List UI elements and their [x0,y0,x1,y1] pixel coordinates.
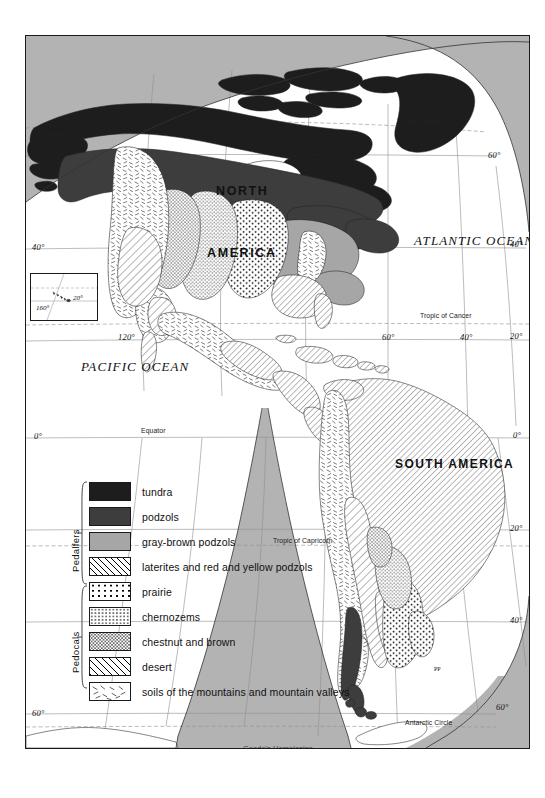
lon-label-40w: 40° [460,332,473,342]
legend-label-gray-brown-podzols: gray-brown podzols [142,536,235,548]
line-label-equator: Equator [141,427,166,434]
legend-label-prairie: prairie [142,586,172,598]
legend-swatch-desert [89,657,131,676]
legend-label-mountain-soils: soils of the mountains and mountain vall… [142,686,349,698]
legend-label-chernozems: chernozems [142,611,200,623]
continent-label-america: AMERICA [207,246,277,260]
inset-graphic [31,274,97,320]
lat-label-0-right: 0° [513,430,521,440]
legend-swatch-mountain-soils [89,682,131,701]
map-canvas: PACIFIC OCEAN ATLANTIC OCEAN NORTH AMERI… [26,36,529,748]
inset-label-160: 160° [36,304,49,312]
legend-group-label-pedalfers: Pedalfers [70,529,81,572]
legend-item-prairie[interactable]: prairie [89,579,349,604]
lat-label-40s-right: 40° [510,615,523,625]
lat-label-0-left: 0° [34,431,42,441]
caption-line-1: Goode's Homolosine [198,744,358,749]
legend-swatch-gray-brown-podzols [89,532,131,551]
point-label-pp: PP [434,666,441,672]
legend-swatch-podzols [89,507,131,526]
line-label-arctic-circle: Arctic Circle [404,118,442,125]
lat-label-60s-left: 60° [32,708,45,718]
lat-label-60s-right: 60° [496,702,509,712]
lon-label-120w: 120° [118,332,135,342]
inset-map-hawaii: 160° 20° [30,273,98,321]
legend-label-tundra: tundra [142,486,172,498]
legend-label-desert: desert [142,661,172,673]
projection-caption: Goode's Homolosine Equal-Area Projection… [198,744,358,749]
legend-item-gray-brown-podzols[interactable]: gray-brown podzols [89,529,349,554]
lat-label-40n-right: 40° [510,239,523,249]
legend-swatch-prairie [89,582,131,601]
legend-label-podzols: podzols [142,511,179,523]
legend-item-chernozems[interactable]: chernozems [89,604,349,629]
legend-item-chestnut-and-brown[interactable]: chestnut and brown [89,629,349,654]
lat-label-20n-right: 20° [510,331,523,341]
line-label-tropic-cancer: Tropic of Cancer [420,312,472,319]
legend-label-chestnut-and-brown: chestnut and brown [142,636,235,648]
line-label-antarctic-circle: Antarctic Circle [405,719,452,726]
legend-item-tundra[interactable]: tundra [89,479,349,504]
legend-group-label-pedocals: Pedocals [70,632,81,673]
legend-item-mountain-soils[interactable]: soils of the mountains and mountain vall… [89,679,349,704]
legend-item-podzols[interactable]: podzols [89,504,349,529]
legend-label-laterites: laterites and red and yellow podzols [142,561,313,573]
inset-label-20: 20° [73,294,83,302]
legend-swatch-chernozems [89,607,131,626]
map-frame: PACIFIC OCEAN ATLANTIC OCEAN NORTH AMERI… [25,35,530,749]
continent-label-south-america: SOUTH AMERICA [395,457,514,471]
lat-label-40n-left: 40° [32,242,45,252]
legend-swatch-chestnut-and-brown [89,632,131,651]
lon-label-60w: 60° [382,332,395,342]
legend-item-laterites[interactable]: laterites and red and yellow podzols [89,554,349,579]
legend-swatch-laterites [89,557,131,576]
legend-items: tundra podzols gray-brown podzols lateri… [89,479,349,704]
lat-label-20s-right: 20° [510,523,523,533]
ocean-label-pacific: PACIFIC OCEAN [81,359,189,375]
continent-label-north: NORTH [216,184,268,198]
map-page: PACIFIC OCEAN ATLANTIC OCEAN NORTH AMERI… [0,0,545,798]
legend-item-desert[interactable]: desert [89,654,349,679]
lat-label-60n-right: 60° [488,150,501,160]
legend-swatch-tundra [89,482,131,501]
